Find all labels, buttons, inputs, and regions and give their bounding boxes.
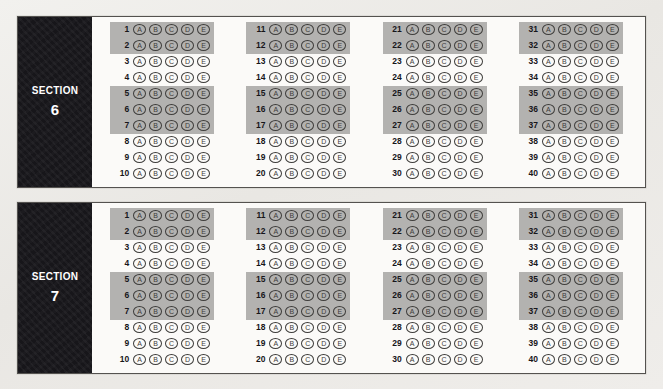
answer-bubble-B[interactable]: B — [285, 306, 298, 317]
answer-bubble-B[interactable]: B — [149, 152, 162, 163]
answer-bubble-E[interactable]: E — [197, 258, 210, 269]
answer-bubble-C[interactable]: C — [438, 56, 451, 67]
answer-bubble-C[interactable]: C — [574, 338, 587, 349]
answer-bubble-A[interactable]: A — [269, 338, 282, 349]
answer-bubble-C[interactable]: C — [438, 306, 451, 317]
answer-bubble-E[interactable]: E — [197, 226, 210, 237]
answer-bubble-C[interactable]: C — [301, 338, 314, 349]
answer-bubble-C[interactable]: C — [438, 72, 451, 83]
answer-bubble-A[interactable]: A — [406, 290, 419, 301]
answer-bubble-E[interactable]: E — [470, 72, 483, 83]
answer-bubble-E[interactable]: E — [333, 210, 346, 221]
answer-bubble-A[interactable]: A — [133, 210, 146, 221]
answer-bubble-E[interactable]: E — [197, 136, 210, 147]
answer-bubble-E[interactable]: E — [333, 72, 346, 83]
answer-bubble-E[interactable]: E — [333, 104, 346, 115]
answer-bubble-E[interactable]: E — [197, 168, 210, 179]
answer-bubble-A[interactable]: A — [269, 226, 282, 237]
answer-bubble-B[interactable]: B — [285, 322, 298, 333]
answer-bubble-B[interactable]: B — [149, 274, 162, 285]
answer-bubble-E[interactable]: E — [470, 152, 483, 163]
answer-bubble-B[interactable]: B — [285, 88, 298, 99]
answer-bubble-C[interactable]: C — [165, 56, 178, 67]
answer-bubble-D[interactable]: D — [181, 210, 194, 221]
answer-bubble-A[interactable]: A — [542, 226, 555, 237]
answer-bubble-D[interactable]: D — [181, 56, 194, 67]
answer-bubble-A[interactable]: A — [542, 24, 555, 35]
answer-bubble-D[interactable]: D — [590, 210, 603, 221]
answer-bubble-B[interactable]: B — [558, 290, 571, 301]
answer-bubble-E[interactable]: E — [606, 306, 619, 317]
answer-bubble-A[interactable]: A — [133, 104, 146, 115]
answer-bubble-B[interactable]: B — [285, 168, 298, 179]
answer-bubble-A[interactable]: A — [406, 338, 419, 349]
answer-bubble-B[interactable]: B — [285, 40, 298, 51]
answer-bubble-C[interactable]: C — [165, 120, 178, 131]
answer-bubble-A[interactable]: A — [269, 168, 282, 179]
answer-bubble-D[interactable]: D — [181, 72, 194, 83]
answer-bubble-E[interactable]: E — [197, 274, 210, 285]
answer-bubble-D[interactable]: D — [317, 338, 330, 349]
answer-bubble-D[interactable]: D — [454, 56, 467, 67]
answer-bubble-E[interactable]: E — [197, 354, 210, 365]
answer-bubble-D[interactable]: D — [454, 72, 467, 83]
answer-bubble-E[interactable]: E — [606, 354, 619, 365]
answer-bubble-C[interactable]: C — [438, 274, 451, 285]
answer-bubble-B[interactable]: B — [558, 226, 571, 237]
answer-bubble-C[interactable]: C — [438, 322, 451, 333]
answer-bubble-A[interactable]: A — [269, 104, 282, 115]
answer-bubble-D[interactable]: D — [454, 322, 467, 333]
answer-bubble-D[interactable]: D — [181, 120, 194, 131]
answer-bubble-E[interactable]: E — [470, 354, 483, 365]
answer-bubble-C[interactable]: C — [165, 72, 178, 83]
answer-bubble-C[interactable]: C — [301, 306, 314, 317]
answer-bubble-E[interactable]: E — [197, 242, 210, 253]
answer-bubble-C[interactable]: C — [438, 242, 451, 253]
answer-bubble-B[interactable]: B — [422, 56, 435, 67]
answer-bubble-C[interactable]: C — [301, 322, 314, 333]
answer-bubble-B[interactable]: B — [422, 24, 435, 35]
answer-bubble-A[interactable]: A — [269, 24, 282, 35]
answer-bubble-C[interactable]: C — [301, 274, 314, 285]
answer-bubble-E[interactable]: E — [470, 290, 483, 301]
answer-bubble-D[interactable]: D — [317, 152, 330, 163]
answer-bubble-C[interactable]: C — [301, 72, 314, 83]
answer-bubble-D[interactable]: D — [181, 242, 194, 253]
answer-bubble-C[interactable]: C — [301, 354, 314, 365]
answer-bubble-E[interactable]: E — [333, 306, 346, 317]
answer-bubble-A[interactable]: A — [133, 40, 146, 51]
answer-bubble-A[interactable]: A — [542, 88, 555, 99]
answer-bubble-A[interactable]: A — [542, 72, 555, 83]
answer-bubble-B[interactable]: B — [285, 258, 298, 269]
answer-bubble-B[interactable]: B — [422, 322, 435, 333]
answer-bubble-D[interactable]: D — [590, 136, 603, 147]
answer-bubble-D[interactable]: D — [454, 136, 467, 147]
answer-bubble-D[interactable]: D — [590, 274, 603, 285]
answer-bubble-C[interactable]: C — [574, 290, 587, 301]
answer-bubble-A[interactable]: A — [133, 24, 146, 35]
answer-bubble-C[interactable]: C — [438, 152, 451, 163]
answer-bubble-E[interactable]: E — [197, 290, 210, 301]
answer-bubble-D[interactable]: D — [590, 152, 603, 163]
answer-bubble-B[interactable]: B — [422, 104, 435, 115]
answer-bubble-B[interactable]: B — [558, 338, 571, 349]
answer-bubble-B[interactable]: B — [285, 152, 298, 163]
answer-bubble-D[interactable]: D — [454, 24, 467, 35]
answer-bubble-B[interactable]: B — [149, 226, 162, 237]
answer-bubble-B[interactable]: B — [558, 88, 571, 99]
answer-bubble-C[interactable]: C — [165, 338, 178, 349]
answer-bubble-E[interactable]: E — [470, 88, 483, 99]
answer-bubble-C[interactable]: C — [165, 258, 178, 269]
answer-bubble-C[interactable]: C — [574, 136, 587, 147]
answer-bubble-A[interactable]: A — [133, 338, 146, 349]
answer-bubble-B[interactable]: B — [422, 274, 435, 285]
answer-bubble-E[interactable]: E — [606, 40, 619, 51]
answer-bubble-D[interactable]: D — [317, 226, 330, 237]
answer-bubble-E[interactable]: E — [606, 88, 619, 99]
answer-bubble-A[interactable]: A — [269, 322, 282, 333]
answer-bubble-E[interactable]: E — [470, 24, 483, 35]
answer-bubble-B[interactable]: B — [149, 290, 162, 301]
answer-bubble-E[interactable]: E — [470, 104, 483, 115]
answer-bubble-A[interactable]: A — [542, 104, 555, 115]
answer-bubble-D[interactable]: D — [590, 72, 603, 83]
